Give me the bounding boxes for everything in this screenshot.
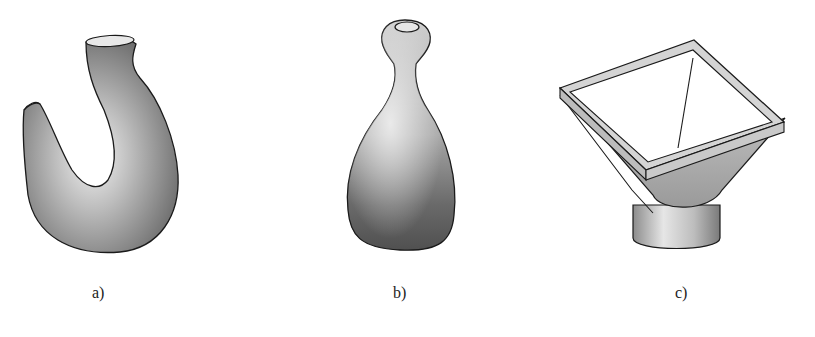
hook-icon [0, 0, 260, 280]
bottle-icon [300, 0, 520, 280]
panel-a-label: a) [92, 284, 104, 302]
panel-b-label: b) [393, 284, 406, 302]
panel-b: b) [300, 0, 520, 337]
panel-a: a) [0, 0, 260, 337]
panel-c-label: c) [675, 284, 687, 302]
hopper-icon [560, 0, 815, 280]
panel-c: c) [560, 0, 815, 337]
